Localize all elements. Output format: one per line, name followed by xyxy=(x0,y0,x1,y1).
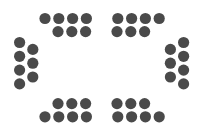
seat-dot xyxy=(165,71,176,82)
seat-dot xyxy=(139,26,150,37)
seat-dot xyxy=(111,26,122,37)
seating-diagram xyxy=(0,0,203,136)
seat-dot xyxy=(52,98,63,109)
seat-dot xyxy=(39,13,50,24)
seat-dot xyxy=(81,111,92,122)
seat-dot xyxy=(140,111,151,122)
seat-dot xyxy=(112,111,123,122)
seat-dot xyxy=(27,71,38,82)
seat-dot xyxy=(14,51,25,62)
seat-dot xyxy=(111,98,122,109)
seat-dot xyxy=(67,13,78,24)
seat-dot xyxy=(14,37,25,48)
seat-dot xyxy=(178,65,189,76)
seat-dot xyxy=(154,111,165,122)
seat-dot xyxy=(178,78,189,89)
seating-layout-icon xyxy=(0,0,203,136)
seat-dot xyxy=(178,37,189,48)
seat-dot xyxy=(165,44,176,55)
seat-dot xyxy=(27,58,38,69)
seat-dot xyxy=(140,13,151,24)
seat-dot xyxy=(52,26,63,37)
seat-dot xyxy=(39,111,50,122)
seat-dot xyxy=(80,98,91,109)
seat-dot xyxy=(67,111,78,122)
seat-dot xyxy=(112,13,123,24)
seat-dot xyxy=(178,51,189,62)
seat-dot xyxy=(81,13,92,24)
seat-dot xyxy=(27,44,38,55)
seat-dot xyxy=(139,98,150,109)
seat-dot xyxy=(53,111,64,122)
seat-dot xyxy=(126,111,137,122)
seat-dot xyxy=(154,13,165,24)
seat-dot xyxy=(66,26,77,37)
seat-dot xyxy=(80,26,91,37)
seat-dot xyxy=(126,13,137,24)
seat-dot xyxy=(125,98,136,109)
seat-dot xyxy=(14,78,25,89)
seat-dot xyxy=(125,26,136,37)
seat-dot xyxy=(14,65,25,76)
seat-dot xyxy=(53,13,64,24)
seat-dot xyxy=(66,98,77,109)
seat-dot xyxy=(165,58,176,69)
